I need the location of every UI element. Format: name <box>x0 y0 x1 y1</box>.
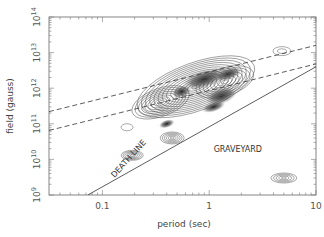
svg-text:1011: 1011 <box>30 114 42 134</box>
y-axis-title: field (gauss) <box>5 78 15 134</box>
y-tick-label: 1014 <box>30 7 42 27</box>
y-tick-label: 1013 <box>30 43 42 63</box>
svg-text:1010: 1010 <box>30 150 42 170</box>
x-axis-title: period (sec) <box>157 219 211 229</box>
svg-text:1012: 1012 <box>30 78 42 98</box>
upper-dashed-line <box>49 45 316 111</box>
x-tick-label: 0.1 <box>95 201 109 211</box>
y-tick-label: 109 <box>30 187 42 203</box>
death-line-label: DEATH LINE <box>109 138 147 179</box>
y-tick-labels: 10910101011101210131014 <box>30 7 42 203</box>
y-tick-label: 1011 <box>30 114 42 134</box>
lower-dashed-line <box>49 64 316 131</box>
svg-text:1014: 1014 <box>30 7 42 27</box>
x-tick-label: 10 <box>310 201 322 211</box>
y-tick-label: 1010 <box>30 150 42 170</box>
contour-lines <box>121 43 297 183</box>
svg-text:109: 109 <box>30 187 42 203</box>
svg-text:1013: 1013 <box>30 43 42 63</box>
graveyard-label: GRAVEYARD <box>214 145 262 154</box>
y-tick-label: 1012 <box>30 78 42 98</box>
x-tick-label: 1 <box>206 201 212 211</box>
x-tick-labels: 0.1110 <box>95 201 322 211</box>
pulsar-ppdot-chart: 0.1110 10910101011101210131014 period (s… <box>0 0 324 237</box>
